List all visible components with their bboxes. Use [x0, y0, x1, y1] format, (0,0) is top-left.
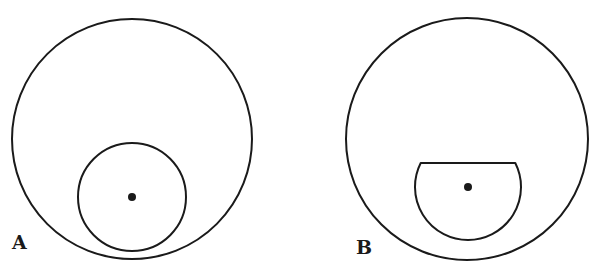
panel-b-truncated-circle [415, 163, 521, 240]
panel-a-label: A [11, 231, 27, 253]
panel-b: B [346, 18, 588, 260]
panel-a-outer-circle [12, 19, 252, 259]
diagram-figure: A B [0, 0, 598, 271]
panel-b-outer-circle [346, 18, 588, 260]
panel-b-label: B [356, 236, 372, 258]
panel-b-center-dot [464, 183, 472, 191]
panel-a-center-dot [128, 193, 136, 201]
panel-a: A [11, 19, 252, 259]
